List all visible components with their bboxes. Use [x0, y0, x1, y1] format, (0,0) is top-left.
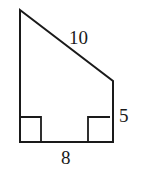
label-right-side: 5	[119, 105, 129, 126]
label-slant-side: 10	[69, 27, 88, 48]
trapezoid-diagram: 10 5 8	[0, 0, 142, 170]
trapezoid-shape	[20, 10, 113, 142]
label-bottom-side: 8	[61, 147, 71, 168]
right-angle-marker-bottom-right	[88, 117, 110, 142]
right-angle-marker-bottom-left	[20, 117, 41, 142]
